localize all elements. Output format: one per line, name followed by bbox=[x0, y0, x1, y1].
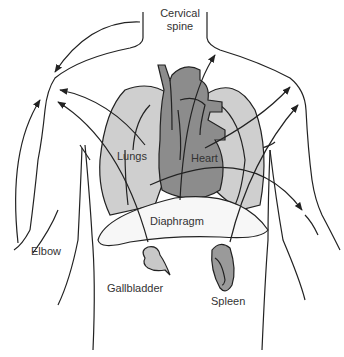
heart bbox=[158, 65, 225, 198]
label-cervical-spine: Cervical spine bbox=[152, 7, 208, 33]
label-gallbladder: Gallbladder bbox=[107, 282, 163, 295]
label-diaphragm: Diaphragm bbox=[150, 215, 204, 228]
spleen bbox=[212, 244, 234, 290]
label-heart: Heart bbox=[191, 152, 218, 165]
label-spleen: Spleen bbox=[211, 295, 245, 308]
label-lungs: Lungs bbox=[117, 150, 147, 163]
label-elbow: Elbow bbox=[31, 245, 61, 258]
gallbladder bbox=[143, 247, 170, 275]
anatomy-diagram bbox=[0, 0, 344, 357]
